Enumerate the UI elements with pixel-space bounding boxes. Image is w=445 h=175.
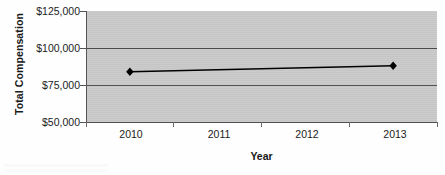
series-line <box>130 66 393 72</box>
x-tick-mark <box>349 122 350 127</box>
data-series-layer <box>86 11 437 122</box>
x-axis-title: Year <box>86 150 437 162</box>
x-tick-mark <box>173 122 174 127</box>
x-tick-label: 2011 <box>179 128 259 140</box>
x-tick-mark <box>261 122 262 127</box>
x-tick-mark <box>437 122 438 127</box>
y-tick-label: $75,000 <box>18 79 80 91</box>
y-tick-label: $125,000 <box>18 5 80 17</box>
y-tick-label: $100,000 <box>18 42 80 54</box>
y-tick-label: $50,000 <box>18 116 80 128</box>
scan-artifact <box>4 164 108 172</box>
x-tick-label: 2013 <box>355 128 435 140</box>
chart-figure: Total Compensation $125,000 $100,000 $75… <box>0 0 445 175</box>
x-tick-mark <box>86 122 87 127</box>
y-axis-tick-labels: $125,000 $100,000 $75,000 $50,000 <box>16 0 80 175</box>
x-tick-label: 2012 <box>267 128 347 140</box>
data-point-marker-2013 <box>389 62 396 70</box>
data-point-marker-2010 <box>126 67 133 75</box>
x-tick-label: 2010 <box>91 128 171 140</box>
